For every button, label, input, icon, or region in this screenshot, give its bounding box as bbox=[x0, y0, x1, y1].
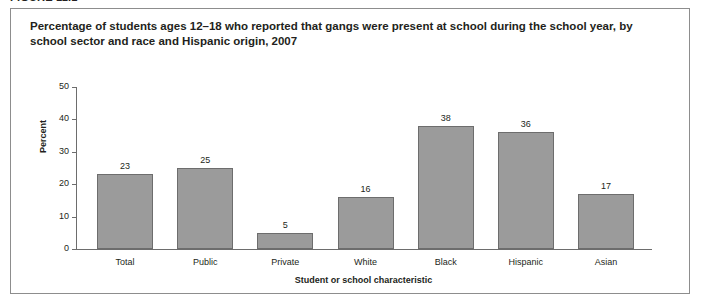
bar-rect bbox=[97, 174, 153, 249]
chart-title: Percentage of students ages 12–18 who re… bbox=[30, 19, 670, 49]
bar-value-label: 5 bbox=[257, 220, 313, 230]
bar-value-label: 36 bbox=[498, 119, 554, 129]
bar-series: 2325516383617 bbox=[76, 87, 651, 249]
bar-item: 5 bbox=[257, 87, 313, 249]
bar-item: 16 bbox=[338, 87, 394, 249]
y-axis-title: Percent bbox=[38, 120, 48, 153]
x-axis-category-label: Asian bbox=[578, 257, 634, 267]
x-axis-category-label: White bbox=[338, 257, 394, 267]
y-axis-tick-label: 0 bbox=[64, 243, 69, 253]
bar-value-label: 38 bbox=[418, 113, 474, 123]
y-axis-tick-mark bbox=[72, 249, 76, 250]
x-axis-category-label: Total bbox=[97, 257, 153, 267]
bar-value-label: 17 bbox=[578, 181, 634, 191]
y-axis-tick-label: 10 bbox=[59, 211, 69, 221]
bar-rect bbox=[498, 132, 554, 249]
bar-rect bbox=[418, 126, 474, 249]
bar-item: 17 bbox=[578, 87, 634, 249]
x-axis-title: Student or school characteristic bbox=[76, 275, 651, 285]
x-axis-category-label: Public bbox=[177, 257, 233, 267]
bar-value-label: 16 bbox=[338, 184, 394, 194]
bar-item: 38 bbox=[418, 87, 474, 249]
y-axis-tick-label: 40 bbox=[59, 113, 69, 123]
bar-rect bbox=[338, 197, 394, 249]
bar-rect bbox=[578, 194, 634, 249]
y-axis-tick-label: 20 bbox=[59, 178, 69, 188]
x-axis-category-label: Private bbox=[257, 257, 313, 267]
bar-item: 36 bbox=[498, 87, 554, 249]
bar-item: 23 bbox=[97, 87, 153, 249]
bar-rect bbox=[257, 233, 313, 249]
x-axis-category-labels: TotalPublicPrivateWhiteBlackHispanicAsia… bbox=[76, 257, 651, 271]
x-axis-category-label: Black bbox=[418, 257, 474, 267]
x-axis-line bbox=[76, 249, 652, 250]
y-axis-tick-label: 30 bbox=[59, 146, 69, 156]
bar-value-label: 25 bbox=[177, 155, 233, 165]
x-axis-category-label: Hispanic bbox=[498, 257, 554, 267]
y-axis-tick-label: 50 bbox=[59, 81, 69, 91]
bar-rect bbox=[177, 168, 233, 249]
figure-panel: Percentage of students ages 12–18 who re… bbox=[10, 8, 690, 294]
bar-item: 25 bbox=[177, 87, 233, 249]
bar-value-label: 23 bbox=[97, 161, 153, 171]
figure-number-label: FIGURE 11.1 bbox=[10, 0, 78, 3]
